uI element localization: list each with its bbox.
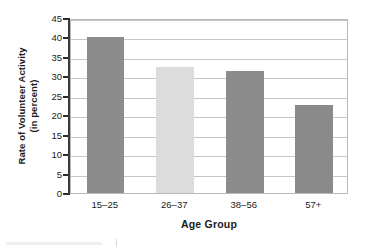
y-axis-tick-label: 45	[38, 14, 62, 24]
y-axis-tick-labels: 051015202530354045	[38, 14, 62, 194]
x-axis-title: Age Group	[70, 218, 348, 230]
y-axis-tick-label: 35	[38, 53, 62, 63]
bars-group	[71, 20, 347, 193]
plot-area	[70, 19, 348, 194]
page-artifact-tick	[116, 239, 117, 247]
x-axis-tick-label: 15–25	[92, 199, 118, 210]
y-axis-tick-label: 20	[38, 111, 62, 121]
x-axis-tick-labels: 15–2526–3738–5657+	[70, 199, 348, 215]
y-axis-tick-label: 40	[38, 33, 62, 43]
y-axis-tick-label: 10	[38, 150, 62, 160]
y-axis-tick-label: 30	[38, 72, 62, 82]
bar	[156, 67, 194, 193]
y-axis-tick-label: 25	[38, 92, 62, 102]
y-axis-title-line-1: Rate of Volunteer Activity	[16, 47, 28, 164]
bar	[87, 37, 125, 193]
bar-chart: Rate of Volunteer Activity (in percent) …	[0, 0, 372, 250]
bar	[226, 71, 264, 193]
page-artifact-line	[6, 242, 102, 245]
y-axis-tick-label: 15	[38, 131, 62, 141]
x-axis-tick-label: 38–56	[231, 199, 257, 210]
x-axis-tick-label: 26–37	[161, 199, 187, 210]
x-axis-tick-label: 57+	[305, 199, 321, 210]
y-axis-tick-label: 5	[38, 170, 62, 180]
y-axis-title-line-2: (in percent)	[27, 47, 39, 164]
bar	[295, 105, 333, 193]
y-axis-tick-label: 0	[38, 189, 62, 199]
